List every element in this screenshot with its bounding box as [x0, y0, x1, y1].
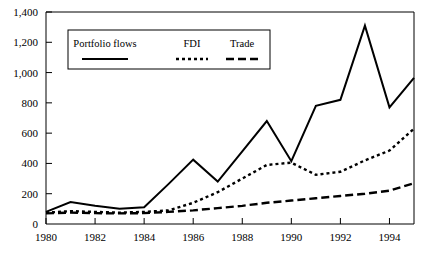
- x-tick-label: 1994: [378, 231, 401, 243]
- legend-label-fdi: FDI: [184, 38, 201, 49]
- y-tick-label: 1,400: [13, 6, 38, 18]
- x-tick-label: 1988: [231, 231, 254, 243]
- y-tick-label: 1,000: [13, 67, 38, 79]
- series-line-trade: [46, 183, 414, 213]
- x-tick-label: 1980: [35, 231, 58, 243]
- x-tick-label: 1986: [182, 231, 205, 243]
- y-tick-label: 400: [22, 157, 39, 169]
- series-line-fdi: [46, 129, 414, 213]
- x-tick-label: 1982: [84, 231, 106, 243]
- y-tick-label: 800: [22, 97, 39, 109]
- x-tick-label: 1984: [133, 231, 156, 243]
- chart-canvas: 02004006008001,0001,2001,400 19801982198…: [0, 0, 429, 258]
- legend-label-portfolio-flows: Portfolio flows: [73, 38, 136, 49]
- y-tick-label: 200: [22, 188, 39, 200]
- legend-box: [68, 30, 270, 69]
- y-tick-label: 1,200: [13, 36, 38, 48]
- chart-legend: Portfolio flowsFDITrade: [68, 30, 270, 69]
- y-tick-label: 0: [33, 218, 39, 230]
- line-chart: 02004006008001,0001,2001,400 19801982198…: [0, 0, 429, 258]
- x-tick-label: 1990: [280, 231, 303, 243]
- x-axis-ticks: 19801982198419861988199019921994: [35, 218, 401, 243]
- legend-label-trade: Trade: [230, 38, 254, 49]
- x-tick-label: 1992: [329, 231, 351, 243]
- y-tick-label: 600: [22, 127, 39, 139]
